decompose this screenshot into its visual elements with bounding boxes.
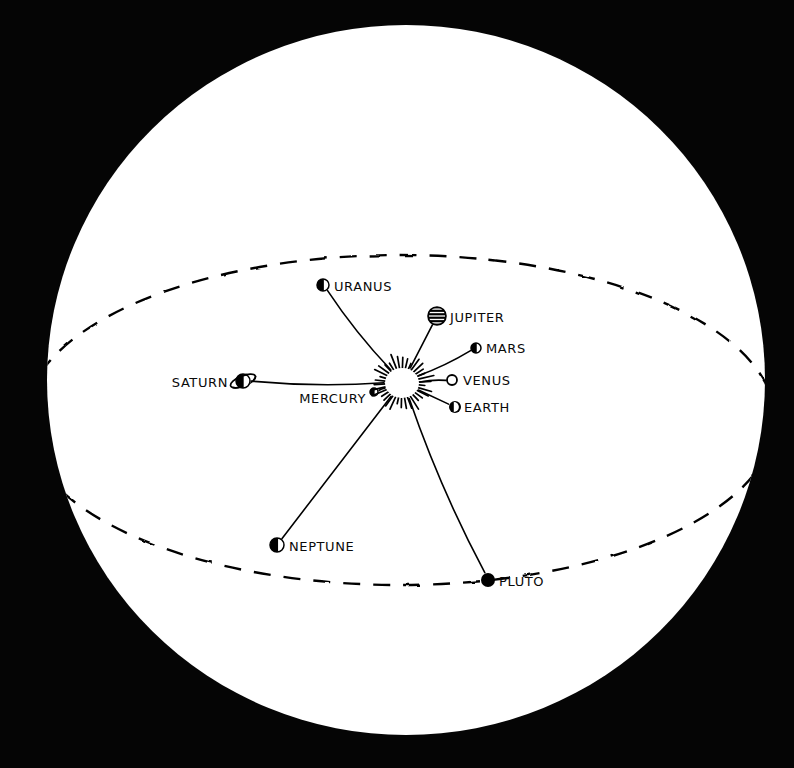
mars-label: MARS <box>486 341 526 356</box>
neptune-marker <box>270 538 285 552</box>
solar-system-figure: URANUSJUPITERMARSVENUSEARTHMERCURYSATURN… <box>0 0 794 768</box>
venus-marker <box>447 375 457 385</box>
jupiter-label: JUPITER <box>449 310 504 325</box>
earth-label: EARTH <box>464 400 510 415</box>
earth-marker <box>449 401 461 413</box>
pluto-marker <box>481 573 495 587</box>
pluto-label: PLUTO <box>499 574 544 589</box>
venus-label: VENUS <box>463 373 511 388</box>
mars-marker <box>471 343 482 353</box>
mercury-label: MERCURY <box>299 391 366 406</box>
diagram-canvas: URANUSJUPITERMARSVENUSEARTHMERCURYSATURN… <box>0 0 794 768</box>
neptune-label: NEPTUNE <box>289 539 354 554</box>
uranus-label: URANUS <box>334 279 392 294</box>
saturn-label: SATURN <box>172 375 228 390</box>
jupiter-marker <box>428 307 446 325</box>
uranus-marker <box>317 279 330 291</box>
